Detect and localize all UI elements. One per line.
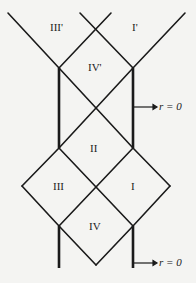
null-line: [80, 13, 133, 68]
region-label-II: II: [90, 142, 97, 154]
region-label-I-prime: I': [132, 21, 138, 33]
arrow-head-icon: [153, 105, 157, 110]
null-line: [59, 13, 111, 68]
region-label-I: I: [131, 180, 135, 192]
null-line: [133, 186, 170, 226]
region-label-IV: IV: [89, 220, 101, 232]
region-label-III-prime: III': [50, 21, 63, 33]
null-line: [22, 186, 59, 226]
null-line: [133, 148, 170, 186]
penrose-diagram: [0, 0, 196, 283]
null-line: [133, 13, 185, 68]
singularity-label-lower: r = 0: [159, 256, 182, 268]
arrow-head-icon: [153, 261, 157, 266]
region-label-III: III: [53, 180, 64, 192]
region-label-IV-prime: IV': [88, 61, 102, 73]
singularity-label-upper: r = 0: [159, 100, 182, 112]
null-line: [96, 226, 133, 265]
